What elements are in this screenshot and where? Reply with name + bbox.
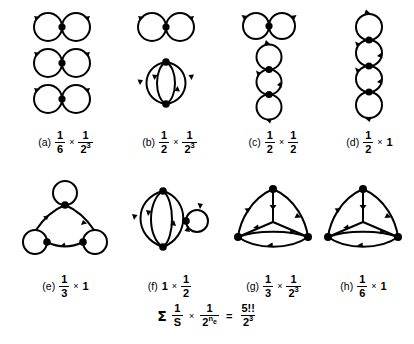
panel-f-tag: (f) xyxy=(148,281,159,292)
result-fraction: 5!! 23 xyxy=(239,303,256,328)
panel-g-edge-fraction: 1 23 xyxy=(286,274,300,299)
panel-g-tag: (g) xyxy=(246,281,260,292)
caption-d: (d) 1 2 × 1 xyxy=(318,130,414,155)
triangle-with-self-loops xyxy=(23,181,107,254)
panel-h-symmetry-fraction: 1 6 xyxy=(357,274,367,299)
panel-c-edge-fraction: 1 2 xyxy=(288,130,298,155)
panel-c-symmetry-fraction: 1 2 xyxy=(265,130,275,155)
figure-eight-2 xyxy=(34,49,90,77)
panel-a-edge-fraction: 1 23 xyxy=(78,130,92,155)
panel-d-graph xyxy=(318,10,414,116)
panel-e-graph xyxy=(14,180,117,262)
panel-b-symmetry-fraction: 1 2 xyxy=(159,130,169,155)
equals-sign: = xyxy=(224,310,234,322)
panel-g: (g) 1 3 × 1 23 xyxy=(222,180,325,299)
caption-b: (b) 1 2 × 1 23 xyxy=(118,130,221,155)
caption-g: (g) 1 3 × 1 23 xyxy=(222,274,325,299)
figure-eight-1 xyxy=(138,13,194,41)
times-sign: × xyxy=(172,138,179,147)
necklace-chain-4 xyxy=(355,10,383,123)
banana-with-tadpole xyxy=(132,187,208,251)
figure-eight-1 xyxy=(242,13,297,39)
caption-a: (a) 1 6 × 1 23 xyxy=(14,130,117,155)
panel-d: (d) 1 2 × 1 xyxy=(318,10,414,155)
panel-d-symmetry-fraction: 1 2 xyxy=(363,130,373,155)
panel-c: (c) 1 2 × 1 2 xyxy=(222,10,325,155)
times-sign: × xyxy=(276,282,283,291)
panel-c-graph xyxy=(222,10,325,116)
panel-b-tag: (b) xyxy=(142,137,156,148)
one-over-two-to-ne-fraction: 1 2ne xyxy=(200,303,219,328)
panel-g-symmetry-fraction: 1 3 xyxy=(263,274,273,299)
panel-d-tag: (d) xyxy=(346,137,360,148)
one-over-s-fraction: 1 S xyxy=(172,303,183,328)
panel-f: (f) 1 × 1 2 xyxy=(118,180,221,299)
panel-a-symmetry-fraction: 1 6 xyxy=(55,130,65,155)
times-sign: × xyxy=(68,138,75,147)
panel-e-tag: (e) xyxy=(42,281,56,292)
panel-h-tag: (h) xyxy=(340,281,354,292)
panel-a-tag: (a) xyxy=(38,137,52,148)
sigma-symbol: Σ xyxy=(157,308,167,324)
four-edge-banana xyxy=(138,58,195,108)
panel-b-edge-fraction: 1 23 xyxy=(182,130,196,155)
sum-equation: Σ 1 S × 1 2ne = 5!! 23 xyxy=(0,303,414,328)
figure-eight-3 xyxy=(34,85,90,113)
times-sign: × xyxy=(370,282,377,291)
panel-a-graph xyxy=(14,10,117,116)
panel-f-graph xyxy=(118,180,221,262)
times-sign: × xyxy=(278,138,285,147)
panel-b: (b) 1 2 × 1 23 xyxy=(118,10,221,155)
figure-eight-1 xyxy=(34,13,90,41)
times-sign: × xyxy=(188,311,195,321)
panel-f-edge-fraction: 1 2 xyxy=(181,274,191,299)
times-sign: × xyxy=(376,138,383,147)
caption-f: (f) 1 × 1 2 xyxy=(118,274,221,299)
panel-e-edge-factor: 1 xyxy=(83,281,89,292)
caption-e: (e) 1 3 × 1 xyxy=(14,274,117,299)
doubled-triangle xyxy=(234,185,312,247)
times-sign: × xyxy=(72,282,79,291)
caption-h: (h) 1 6 × 1 xyxy=(312,274,414,299)
necklace-chain-3 xyxy=(256,40,282,124)
doubled-triangle xyxy=(324,185,402,247)
panel-c-tag: (c) xyxy=(249,137,262,148)
panel-h-edge-factor: 1 xyxy=(381,281,387,292)
panel-h-graph xyxy=(312,180,414,262)
panel-e-symmetry-fraction: 1 3 xyxy=(59,274,69,299)
diagram-figure: (a) 1 6 × 1 23 xyxy=(0,0,414,344)
panel-f-symmetry-factor: 1 xyxy=(162,281,168,292)
panel-e: (e) 1 3 × 1 xyxy=(14,180,117,299)
panel-a: (a) 1 6 × 1 23 xyxy=(14,10,117,155)
panel-b-graph xyxy=(118,10,221,116)
times-sign: × xyxy=(171,282,178,291)
panel-d-edge-factor: 1 xyxy=(387,137,393,148)
panel-h: (h) 1 6 × 1 xyxy=(312,180,414,299)
panel-g-graph xyxy=(222,180,325,262)
caption-c: (c) 1 2 × 1 2 xyxy=(222,130,325,155)
